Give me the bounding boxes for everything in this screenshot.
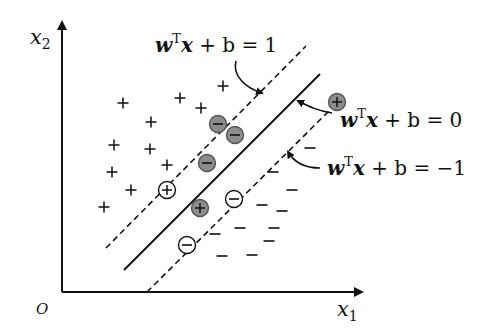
plus-sample: [145, 144, 156, 155]
y-axis-label: x2: [30, 25, 51, 52]
origin-label: O: [36, 300, 48, 318]
plus-sample: [196, 103, 207, 114]
svm-diagram: x2 x1 O wTx + b = 1 wTx + b = 0 wTx + b …: [0, 0, 501, 330]
label-margin-positive: wTx + b = 1: [155, 31, 277, 57]
x-axis-label: x1: [337, 297, 358, 324]
arrow-margin-positive: [235, 61, 262, 93]
plus-sample: [218, 81, 229, 92]
arrow-hyperplane: [298, 101, 332, 113]
hyperplane-line: [124, 74, 320, 270]
plus-sample: [175, 93, 186, 104]
margin-line-positive: [106, 46, 306, 248]
margin-line-negative: [147, 98, 342, 292]
label-hyperplane: wTx + b = 0: [340, 106, 462, 132]
support-vectors: [159, 94, 346, 254]
plus-sample: [162, 160, 173, 171]
plus-sample: [146, 117, 157, 128]
plus-sample: [107, 167, 118, 178]
plus-sample: [109, 140, 120, 151]
plus-sample: [118, 98, 129, 109]
arrow-margin-negative: [288, 152, 320, 168]
plus-sample: [99, 202, 110, 213]
label-margin-negative: wTx + b = −1: [327, 154, 466, 180]
plus-sample: [126, 185, 137, 196]
